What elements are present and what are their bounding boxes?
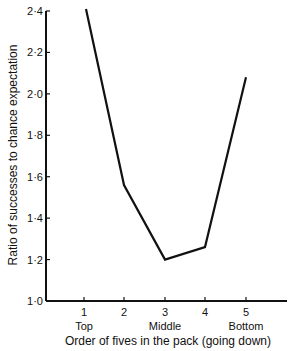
y-tick-label: 2·2 — [27, 46, 43, 58]
x-axis-ticks: 12345TopMiddleBottom — [75, 297, 263, 332]
x-axis-title: Order of fives in the pack (going down) — [65, 334, 271, 348]
x-tick-label: 1 — [81, 306, 87, 318]
y-tick-label: 1·6 — [27, 171, 43, 183]
axes — [46, 11, 287, 301]
y-tick-label: 2·0 — [27, 88, 43, 100]
x-tick-label: 4 — [202, 306, 208, 318]
y-tick-label: 1·2 — [27, 254, 43, 266]
data-line — [86, 9, 246, 260]
x-tick-label: 2 — [121, 306, 127, 318]
y-tick-label: 1·8 — [27, 129, 43, 141]
x-sub-label: Bottom — [229, 320, 264, 332]
y-tick-label: 1·4 — [27, 212, 43, 224]
y-tick-label: 1·0 — [27, 295, 43, 307]
x-tick-label: 5 — [243, 306, 249, 318]
x-sub-label: Top — [75, 320, 93, 332]
y-axis-title: Ratio of successes to chance expectation — [6, 45, 20, 266]
y-tick-label: 2·4 — [27, 5, 43, 17]
line-chart: 1·01·21·41·61·82·02·22·4 12345TopMiddleB… — [0, 0, 294, 351]
x-tick-label: 3 — [162, 306, 168, 318]
x-sub-label: Middle — [149, 320, 181, 332]
